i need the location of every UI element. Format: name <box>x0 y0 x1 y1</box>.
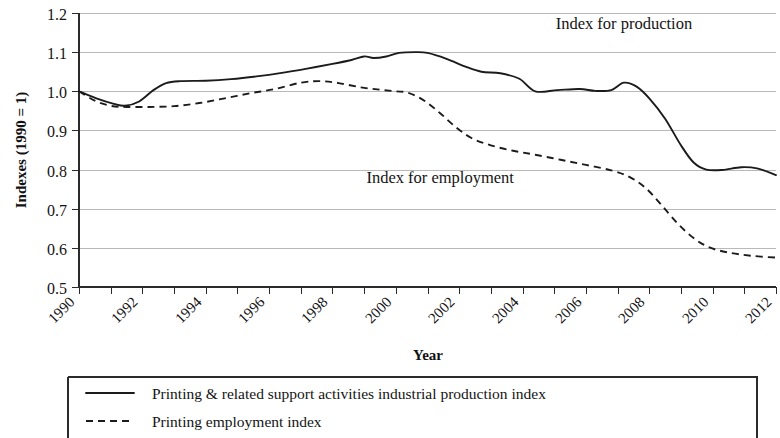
y-tick-label: 1.2 <box>47 6 67 23</box>
y-tick-marks <box>72 14 79 288</box>
gridlines <box>79 14 776 288</box>
inline-annotations: Index for productionIndex for employment <box>366 14 692 186</box>
x-tick-label: 1994 <box>172 293 205 326</box>
x-tick-label: 1990 <box>45 294 78 327</box>
y-tick-label: 0.8 <box>47 163 67 180</box>
chart-figure: 0.50.60.70.80.91.01.11.2 199019921994199… <box>0 0 780 438</box>
y-axis-title: Indexes (1990 = 1) <box>13 92 30 208</box>
x-tick-label: 2004 <box>489 293 522 326</box>
x-tick-label: 2012 <box>742 294 775 327</box>
x-tick-label: 2008 <box>615 294 648 327</box>
x-tick-label: 1998 <box>298 294 331 327</box>
y-tick-label: 0.7 <box>47 202 67 219</box>
x-tick-label: 2002 <box>425 294 458 327</box>
y-tick-label: 1.0 <box>47 84 67 101</box>
y-tick-label: 0.5 <box>47 280 67 297</box>
y-tick-label: 0.6 <box>47 241 67 258</box>
series-annotation: Index for production <box>556 14 693 33</box>
x-tick-label: 2000 <box>362 294 395 327</box>
legend-label-production: Printing & related support activities in… <box>152 385 546 402</box>
x-tick-label: 1992 <box>108 294 141 327</box>
x-tick-label: 2006 <box>552 293 585 326</box>
y-tick-label: 1.1 <box>47 45 67 62</box>
x-tick-labels: 1990199219941996199820002002200420062008… <box>45 293 775 326</box>
series-annotation: Index for employment <box>366 168 514 187</box>
y-tick-label: 0.9 <box>47 123 67 140</box>
y-tick-labels: 0.50.60.70.80.91.01.11.2 <box>47 6 67 297</box>
x-tick-label: 2010 <box>679 294 712 327</box>
legend-box: Printing & related support activities in… <box>68 377 757 438</box>
x-tick-label: 1996 <box>235 293 268 326</box>
series-line-production <box>79 52 776 175</box>
line-chart: 0.50.60.70.80.91.01.11.2 199019921994199… <box>0 0 780 438</box>
x-axis-title: Year <box>413 347 443 363</box>
legend-label-employment: Printing employment index <box>152 413 322 430</box>
x-tick-marks <box>80 287 777 294</box>
